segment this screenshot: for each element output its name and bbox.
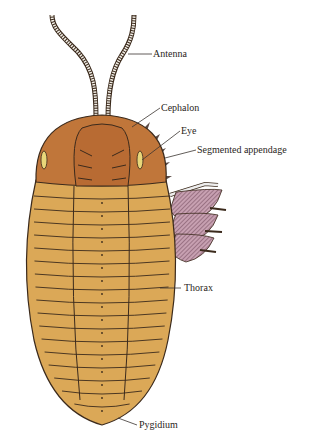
axial-dot [101, 293, 103, 295]
label-thorax: Thorax [184, 282, 213, 293]
trilobite-diagram: Antenna Cephalon Eye Segmented appendage… [0, 0, 319, 443]
axial-dot [101, 397, 103, 399]
label-antenna: Antenna [153, 48, 187, 59]
thorax [26, 180, 175, 425]
antenna-left [52, 15, 96, 118]
eye-left [41, 151, 47, 169]
axial-dot [101, 384, 103, 386]
label-cephalon: Cephalon [161, 102, 199, 113]
axial-dot [101, 358, 103, 360]
axial-dot [101, 371, 103, 373]
axial-dot [101, 345, 103, 347]
label-pygidium: Pygidium [139, 419, 178, 430]
axial-dot [101, 241, 103, 243]
label-segmented-appendage: Segmented appendage [197, 144, 287, 155]
antenna-right [108, 15, 134, 118]
axial-dot [101, 228, 103, 230]
axial-dot [101, 202, 103, 204]
axial-dot [101, 306, 103, 308]
antennae [52, 15, 134, 118]
axial-dot [101, 332, 103, 334]
axial-dot [101, 254, 103, 256]
label-eye: Eye [181, 125, 197, 136]
axial-dot [101, 215, 103, 217]
segmented-appendages [170, 184, 226, 262]
axial-dot [101, 410, 103, 412]
axial-dot [101, 280, 103, 282]
axial-dot [101, 267, 103, 269]
axial-dot [101, 319, 103, 321]
